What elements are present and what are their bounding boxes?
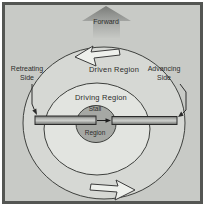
retreating-blade [35, 116, 96, 125]
advancing-side-label-line1: Advancing [148, 65, 181, 73]
rotor-regions-diagram: Driven Region Driving Region Stall Regio… [0, 0, 205, 211]
retreating-side-label-line2: Side [20, 74, 34, 81]
advancing-side-label-line2: Side [157, 74, 171, 81]
retreating-side-label-line1: Retreating [11, 65, 43, 73]
advancing-blade [112, 117, 177, 125]
stall-region-label-line2: Region [85, 129, 106, 137]
stall-region-label-line1: Stall [89, 105, 102, 112]
driving-region-label: Driving Region [75, 93, 127, 102]
forward-label: Forward [93, 18, 119, 25]
diagram-canvas: Driven Region Driving Region Stall Regio… [0, 0, 205, 211]
driven-region-label: Driven Region [89, 65, 139, 74]
